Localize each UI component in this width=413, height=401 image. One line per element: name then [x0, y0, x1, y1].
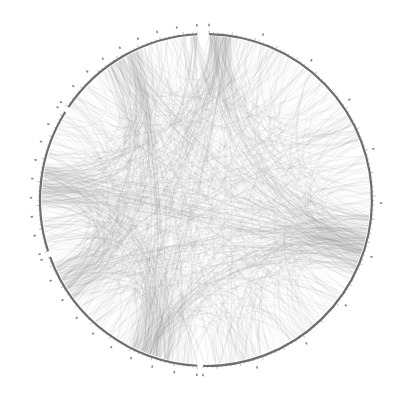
- tick-label: [208, 24, 210, 26]
- tick-label: [86, 70, 89, 73]
- tick-label: [38, 253, 41, 255]
- tick-label: [92, 332, 95, 335]
- chord-links: [42, 36, 370, 364]
- tick-label: [370, 256, 373, 258]
- chord-diagram: [0, 0, 413, 401]
- tick-label: [151, 365, 153, 368]
- tick-label: [137, 37, 139, 40]
- tick-label: [31, 178, 34, 180]
- tick-label: [310, 59, 313, 62]
- tick-label: [47, 123, 50, 125]
- tick-label: [40, 259, 43, 261]
- tick-label: [72, 85, 75, 88]
- tick-label: [40, 140, 43, 142]
- tick-label: [61, 299, 64, 302]
- tick-label: [256, 366, 258, 369]
- tick-label: [176, 26, 178, 29]
- tick-label: [202, 374, 204, 376]
- tick-label: [348, 98, 351, 101]
- tick-label: [49, 279, 52, 282]
- tick-label: [173, 371, 175, 374]
- tick-label: [196, 374, 198, 376]
- tick-label: [75, 316, 78, 319]
- tick-label: [33, 235, 36, 237]
- tick-label: [372, 148, 375, 150]
- tick-label: [110, 346, 113, 349]
- tick-label: [344, 304, 347, 307]
- tick-label: [56, 106, 59, 109]
- tick-label: [130, 357, 132, 360]
- tick-label: [156, 31, 158, 34]
- tick-label: [101, 57, 104, 60]
- tick-label: [30, 197, 32, 199]
- tick-label: [262, 33, 264, 36]
- tick-label: [196, 24, 198, 26]
- tick-label: [305, 342, 308, 345]
- tick-label: [59, 101, 62, 104]
- tick-label: [31, 216, 34, 218]
- tick-label: [119, 46, 122, 49]
- tick-label: [34, 159, 37, 161]
- chord-paths: [42, 36, 370, 364]
- tick-label: [380, 202, 382, 204]
